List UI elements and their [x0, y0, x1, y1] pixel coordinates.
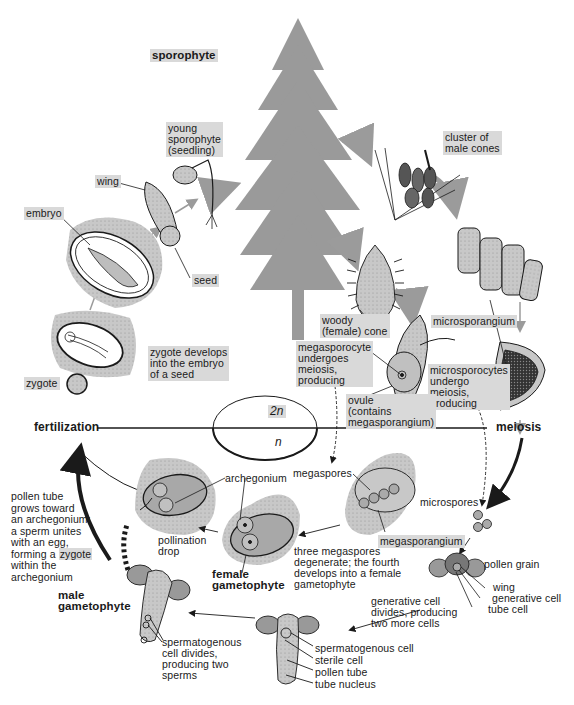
woody-female-cone-icon — [347, 245, 404, 322]
label-embryo: embryo — [24, 207, 64, 220]
label-sterile-cell: sterile cell — [315, 655, 363, 666]
male-cone-cluster-icon — [375, 148, 460, 220]
label-pollination-drop: pollination drop — [158, 535, 206, 557]
label-cluster-male-cones: cluster of male cones — [443, 131, 502, 155]
label-pollen-grain: pollen grain — [484, 559, 540, 570]
label-pg-tube-cell: tube cell — [488, 604, 528, 615]
label-microspores: microspores — [420, 497, 478, 508]
zygote-icon — [67, 374, 87, 394]
label-three-megaspores: three megaspores degenerate; the fourth … — [294, 546, 401, 590]
label-microsporocytes: microsporocytes undergo meiosis, produci… — [428, 364, 510, 410]
label-pollen-tube: pollen tube — [315, 667, 367, 678]
label-zygote: zygote — [24, 377, 60, 390]
label-young-sporophyte: young sporophyte (seedling) — [166, 122, 223, 157]
label-megaspores: megaspores — [293, 468, 352, 479]
megaspores-ovule — [345, 453, 416, 535]
stage-sporophyte: sporophyte — [150, 49, 218, 62]
meiosis-arrow — [490, 438, 522, 505]
seedling-icon — [173, 160, 217, 229]
label-seed: seed — [192, 274, 219, 287]
pine-tree-icon — [235, 18, 360, 340]
seed-embryo-section — [59, 218, 165, 312]
label-spermatogenous-divides: spermatogenous cell divides, producing t… — [162, 637, 242, 681]
ovule-zygote-section — [51, 311, 136, 378]
label-generative-divides: generative cell divides, producing two m… — [371, 596, 457, 629]
pollen-tube-text-zygote: zygote — [59, 548, 93, 560]
stage-female-gametophyte: female gametophyte — [212, 569, 285, 591]
fertilization-thin-arrow — [80, 452, 138, 490]
label-spermatogenous-cell: spermatogenous cell — [315, 643, 414, 654]
label-archegonium: archegonium — [225, 473, 287, 484]
label-woody-cone: woody (female) cone — [320, 314, 390, 338]
germinating-pollen-icon — [256, 614, 319, 684]
label-microsporangium: microsporangium — [431, 315, 517, 328]
male-gametophyte-icon — [127, 565, 190, 643]
label-tube-nucleus: tube nucleus — [315, 679, 376, 690]
stage-fertilization: fertilization — [34, 421, 99, 434]
microspores-icon — [474, 511, 492, 532]
pollen-tube-growth-arrow — [124, 525, 128, 570]
label-ovule: ovule (contains megasporangium) — [346, 394, 436, 429]
label-pollen-tube-text: pollen tube grows toward an archegonium;… — [11, 491, 92, 583]
stage-male-gametophyte: male gametophyte — [58, 590, 131, 612]
microsporangia-scales — [458, 228, 543, 301]
label-wing: wing — [95, 175, 121, 188]
pollen-tube-text-b: within the archegonium — [11, 559, 73, 583]
female-gametophyte-ovule — [222, 495, 300, 573]
stage-meiosis: meiosis — [496, 421, 541, 434]
label-megasporocyte: megasporocyte undergoes meiosis, produci… — [296, 341, 373, 387]
phase-diploid: 2n — [268, 405, 286, 418]
label-zygote-develops: zygote develops into the embryo of a see… — [148, 346, 229, 381]
phase-haploid: n — [275, 437, 282, 448]
